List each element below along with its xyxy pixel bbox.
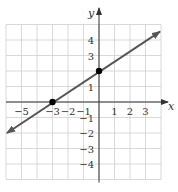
data-point (49, 99, 55, 105)
y-tick-label: 4 (88, 35, 94, 46)
y-tick-label: 3 (88, 51, 94, 62)
x-axis-label: x (168, 100, 175, 113)
x-tick-label: −3 (45, 106, 60, 117)
y-tick-label: −3 (79, 144, 94, 155)
y-axis-label: y (87, 7, 95, 20)
y-tick-label: −2 (79, 128, 94, 139)
data-point (96, 68, 102, 74)
y-tick-label: −4 (79, 159, 94, 170)
x-tick-label: −5 (14, 106, 29, 117)
y-tick-label: −1 (79, 113, 94, 124)
x-tick-label: 1 (111, 106, 117, 117)
coordinate-plane: −5−3−2−1123431−1−2−3−4 x y (0, 0, 178, 192)
x-tick-label: −2 (61, 106, 76, 117)
y-tick-label: 1 (88, 82, 94, 93)
x-tick-label: 2 (127, 106, 133, 117)
x-tick-label: 3 (142, 106, 148, 117)
